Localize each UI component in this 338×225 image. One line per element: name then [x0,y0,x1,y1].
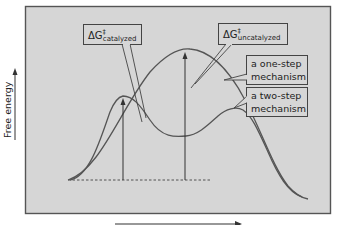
free-energy-diagram: Free energy ΔG‡catalyzed ΔG‡uncatalyzed [0,0,338,225]
uncatalyzed-subscript: uncatalyzed [238,34,281,42]
two-step-label-line1: a two-step [251,90,301,101]
catalyzed-subscript: catalyzed [103,35,137,43]
y-axis-arrow [13,68,18,140]
one-step-label-line2: mechanism [251,71,306,82]
two-step-label-line2: mechanism [251,103,306,114]
delta-g-symbol: ΔG [223,29,238,40]
one-step-label-line1: a one-step [251,58,302,69]
x-axis-arrow [115,221,242,225]
y-axis-label: Free energy [2,81,13,138]
delta-g-symbol: ΔG [88,30,103,41]
